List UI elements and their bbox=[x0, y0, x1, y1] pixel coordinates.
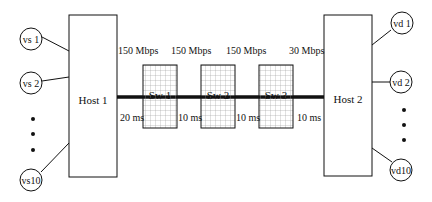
sw2-label: Sw 2 bbox=[207, 89, 229, 101]
host2-label: Host 2 bbox=[333, 93, 362, 105]
delay-label-3: 10 ms bbox=[236, 112, 260, 123]
host1-node: Host 1 bbox=[69, 15, 117, 177]
link-vs1-host1 bbox=[42, 37, 69, 51]
bandwidth-label-2: 150 Mbps bbox=[171, 45, 211, 56]
source-vs1: vs 1 bbox=[20, 28, 42, 50]
sw3-label: Sw 3 bbox=[265, 89, 288, 101]
network-diagram: Host 1 Host 2 Sw 1 Sw 2 Sw 3 150 Mbps 15… bbox=[0, 0, 432, 202]
destination-vd10: vd10 bbox=[390, 159, 412, 181]
link-vs2-host1 bbox=[42, 77, 69, 81]
link-host2-vd1 bbox=[372, 30, 391, 45]
bandwidth-label-3: 150 Mbps bbox=[226, 45, 266, 56]
vd2-label: vd 2 bbox=[392, 77, 410, 88]
link-host2-vd10 bbox=[372, 148, 392, 162]
switch-sw2: Sw 2 bbox=[201, 65, 235, 128]
link-vs10-host1 bbox=[41, 143, 69, 172]
source-ellipsis bbox=[31, 117, 35, 152]
delay-label-4: 10 ms bbox=[297, 112, 321, 123]
source-vs10: vs10 bbox=[20, 169, 42, 191]
host1-label: Host 1 bbox=[78, 94, 107, 106]
delay-label-2: 10 ms bbox=[178, 112, 202, 123]
switch-sw3: Sw 3 bbox=[259, 65, 293, 128]
vd10-label: vd10 bbox=[391, 165, 411, 176]
bandwidth-label-4: 30 Mbps bbox=[289, 45, 324, 56]
host2-node: Host 2 bbox=[324, 15, 372, 176]
destination-ellipsis bbox=[402, 108, 406, 142]
vs10-label: vs10 bbox=[22, 175, 41, 186]
switch-sw1: Sw 1 bbox=[143, 65, 177, 128]
source-vs2: vs 2 bbox=[20, 72, 42, 94]
vs1-label: vs 1 bbox=[23, 34, 39, 45]
bandwidth-label-1: 150 Mbps bbox=[118, 45, 158, 56]
delay-label-1: 20 ms bbox=[120, 112, 144, 123]
vs2-label: vs 2 bbox=[23, 78, 39, 89]
sw1-label: Sw 1 bbox=[149, 89, 171, 101]
destination-vd2: vd 2 bbox=[390, 71, 412, 93]
destination-vd1: vd 1 bbox=[391, 12, 413, 34]
vd1-label: vd 1 bbox=[393, 18, 411, 29]
